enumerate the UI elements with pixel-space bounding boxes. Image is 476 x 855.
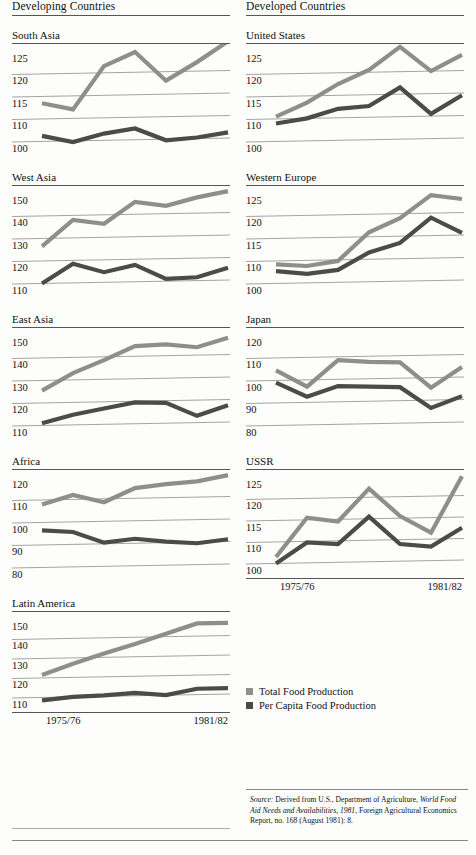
chart-panel-west-asia: West Asia150140130120110	[12, 167, 230, 298]
legend: Total Food Production Per Capita Food Pr…	[246, 686, 466, 714]
y-tick-label: 120	[12, 263, 30, 273]
series-line-total	[42, 338, 228, 391]
plot-svg	[246, 470, 464, 578]
x-axis: 1975/761981/82	[246, 578, 464, 594]
plot-svg	[246, 44, 464, 156]
plot-area: 1201101009080	[12, 469, 230, 582]
y-tick-label: 125	[246, 54, 264, 64]
gridline	[246, 235, 464, 239]
y-tick-label: 125	[246, 196, 264, 206]
plot-area: 150140130120110	[12, 185, 230, 298]
gridline	[246, 496, 464, 500]
source-text-1: Derived from U.S., Department of Agricul…	[273, 795, 420, 804]
y-tick-label: 120	[12, 480, 30, 490]
chart-panel-africa: Africa1201101009080	[12, 451, 230, 582]
y-tick-label: 110	[12, 121, 29, 131]
x-tick-label-end: 1981/82	[194, 715, 228, 726]
gridline	[246, 517, 464, 521]
gridline	[246, 280, 464, 284]
gridline	[246, 539, 464, 543]
latin-america-underline	[12, 828, 230, 829]
column-developed: Developed Countries United States1251201…	[246, 0, 464, 605]
y-tick-label: 130	[12, 383, 30, 393]
y-tick-label: 120	[12, 76, 30, 86]
source-prefix: Source:	[250, 795, 273, 804]
panel-title: Africa	[12, 455, 40, 468]
plot-area: 125120115110100	[12, 43, 230, 156]
panel-title: Western Europe	[246, 171, 316, 184]
y-tick-label: 115	[246, 523, 263, 533]
y-tick-label: 90	[12, 547, 25, 557]
y-tick-label: 120	[246, 218, 264, 228]
y-tick-label: 110	[246, 121, 263, 131]
chart-panel-south-asia: South Asia125120115110100	[12, 25, 230, 156]
plot-svg	[12, 186, 230, 298]
column-developing: Developing Countries South Asia125120115…	[12, 0, 230, 739]
y-tick-label: 125	[12, 54, 30, 64]
legend-label-percapita: Per Capita Food Production	[259, 700, 376, 711]
panel-title: Latin America	[12, 597, 75, 610]
y-tick-label: 140	[12, 360, 30, 370]
gridline	[12, 377, 230, 381]
x-tick-label-start: 1975/76	[280, 581, 314, 592]
legend-swatch-percapita	[246, 702, 253, 709]
gridline	[246, 422, 464, 426]
chart-panel-western-europe: Western Europe125120115110100	[246, 167, 464, 298]
gridline	[12, 636, 230, 640]
y-tick-label: 80	[246, 428, 259, 438]
y-tick-label: 125	[246, 480, 264, 490]
y-tick-label: 100	[246, 144, 264, 154]
y-tick-label: 100	[12, 144, 30, 154]
y-tick-label: 120	[246, 76, 264, 86]
gridline	[12, 655, 230, 659]
plot-area: 125120115110100	[246, 185, 464, 298]
y-tick-label: 120	[12, 405, 30, 415]
plot-area: 150140130120110	[12, 327, 230, 440]
y-tick-label: 115	[246, 241, 263, 251]
panel-title: United States	[246, 29, 305, 42]
series-line-total	[42, 44, 228, 109]
y-tick-label: 110	[246, 263, 263, 273]
y-tick-label: 140	[12, 641, 30, 651]
series-line-per-capita	[42, 530, 228, 543]
y-tick-label: 110	[246, 360, 263, 370]
panel-title: South Asia	[12, 29, 60, 42]
chart-panel-east-asia: East Asia150140130120110	[12, 309, 230, 440]
y-tick-label: 100	[12, 525, 30, 535]
x-tick-label-end: 1981/82	[428, 581, 462, 592]
gridline	[12, 355, 230, 359]
y-tick-label: 110	[12, 286, 29, 296]
plot-svg	[12, 44, 230, 156]
gridline	[12, 564, 230, 568]
y-tick-label: 90	[246, 405, 259, 415]
chart-panel-ussr: USSR1251201151101001975/761981/82	[246, 451, 464, 594]
y-tick-label: 140	[12, 218, 30, 228]
panel-title: East Asia	[12, 313, 53, 326]
legend-label-total: Total Food Production	[259, 686, 353, 697]
y-tick-label: 110	[12, 428, 29, 438]
y-tick-label: 150	[12, 196, 30, 206]
chart-panel-united-states: United States125120115110100	[246, 25, 464, 156]
y-tick-label: 150	[12, 622, 30, 632]
y-tick-label: 110	[246, 544, 263, 554]
plot-svg	[12, 328, 230, 440]
panel-title: USSR	[246, 455, 274, 468]
plot-svg	[12, 612, 230, 712]
x-axis: 1975/761981/82	[12, 712, 230, 728]
gridline	[12, 497, 230, 501]
gridline	[12, 519, 230, 523]
legend-swatch-total	[246, 688, 253, 695]
plot-svg	[246, 328, 464, 440]
y-tick-label: 130	[12, 241, 30, 251]
chart-panel-latin-america: Latin America1501401301201101975/761981/…	[12, 593, 230, 728]
plot-svg	[246, 186, 464, 298]
column-title-developing: Developing Countries	[12, 0, 230, 15]
panel-title: Japan	[246, 313, 271, 326]
y-tick-label: 110	[12, 700, 29, 710]
series-line-per-capita	[42, 402, 228, 423]
x-tick-label-start: 1975/76	[46, 715, 80, 726]
series-line-total	[42, 475, 228, 504]
column-rule	[12, 15, 230, 16]
y-tick-label: 150	[12, 338, 30, 348]
gridline	[12, 258, 230, 262]
